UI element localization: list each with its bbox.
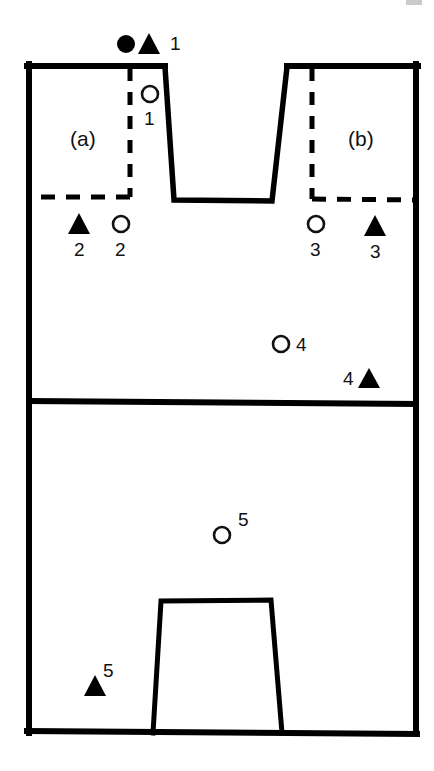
open-circle-marker-5: [214, 527, 230, 543]
panel-label-b: (b): [348, 128, 374, 149]
marker-label-filled-triangle-2: 2: [74, 240, 85, 259]
schematic-diagram-canvas: [0, 0, 434, 771]
marker-label-open-circle-5: 5: [238, 510, 249, 529]
open-circle-marker-4: [273, 336, 289, 352]
marker-label-open-circle-4: 4: [296, 335, 307, 354]
middle-horizontal-divider: [29, 401, 416, 404]
filled-circle-marker-group: [117, 35, 135, 53]
marker-label-filled-triangle-3: 3: [370, 242, 381, 261]
filled-triangle-marker-group: [68, 33, 386, 696]
lower-upright-trapezoid: [153, 600, 282, 733]
marker-label-filled-triangle-5: 5: [103, 661, 114, 680]
outer-frame-bottom-edge: [27, 731, 417, 734]
filled-triangle-marker-1: [138, 33, 160, 54]
marker-label-open-circle-1: 1: [144, 109, 155, 128]
dashed-horizontal-line-right: [312, 199, 416, 200]
marker-label-open-circle-2: 2: [115, 240, 126, 259]
marker-label-filled-triangle-4: 4: [343, 369, 354, 388]
filled-triangle-marker-4: [358, 368, 380, 388]
open-circle-marker-1: [142, 86, 158, 102]
filled-circle-marker-1: [117, 35, 135, 53]
open-circle-marker-group: [113, 86, 324, 543]
panel-label-a: (a): [70, 128, 96, 149]
filled-triangle-marker-3: [364, 215, 386, 236]
open-circle-marker-3: [308, 216, 324, 232]
figure-container: (a) (b) 1 1 2 2 3 3 4 4 5 5: [0, 0, 434, 771]
filled-triangle-marker-2: [68, 213, 90, 234]
marker-label-open-circle-3: 3: [310, 240, 321, 259]
upper-inverted-trapezoid: [165, 67, 287, 201]
marker-label-top-1: 1: [170, 34, 181, 53]
open-circle-marker-2: [113, 216, 129, 232]
